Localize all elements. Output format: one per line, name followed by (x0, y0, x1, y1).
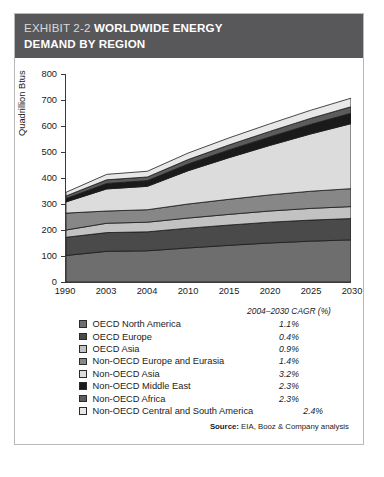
legend-item: Non-OECD Africa2.3% (79, 392, 349, 404)
y-axis-tick-label: 600 (41, 121, 57, 131)
y-axis-tick-mark (61, 204, 65, 205)
cagr-column-header: 2004–2030 CAGR (%) (229, 306, 349, 316)
legend-item-label: OECD North America (93, 319, 230, 329)
legend-item: OECD North America1.1% (79, 318, 349, 330)
legend-item-label: OECD Europe (93, 332, 230, 342)
x-axis-tick-label: 2010 (178, 286, 199, 296)
legend-swatch-icon (79, 358, 87, 366)
legend-swatch-icon (79, 320, 87, 328)
legend-swatch-icon (79, 370, 87, 378)
x-axis-tick-label: 1990 (55, 286, 76, 296)
y-axis-tick-label: 500 (41, 147, 57, 157)
y-axis-tick-mark (61, 256, 65, 257)
legend-swatch-icon (79, 395, 87, 403)
legend-item-label: Non-OECD Africa (93, 394, 230, 404)
y-axis-tick-mark (61, 178, 65, 179)
y-axis-tick-mark (61, 126, 65, 127)
exhibit-number: EXHIBIT 2-2 (24, 21, 91, 34)
plot-area (65, 74, 351, 283)
y-axis-tick-label: 200 (41, 225, 57, 235)
legend-swatch-icon (79, 345, 87, 353)
source-body: EIA, Booz & Company analysis (239, 422, 349, 431)
x-axis-tick-label: 2003 (96, 286, 117, 296)
legend-item-label: Non-OECD Asia (93, 369, 230, 379)
legend-swatch-icon (79, 333, 87, 341)
exhibit-title-line1: WORLDWIDE ENERGY (94, 21, 223, 34)
y-axis-tick-mark (61, 100, 65, 101)
legend-item-cagr: 2.3% (229, 381, 349, 391)
legend-item-cagr: 0.9% (229, 344, 349, 354)
legend-item-label: OECD Asia (93, 344, 230, 354)
legend-item: OECD Europe0.4% (79, 330, 349, 342)
legend-item: Non-OECD Middle East2.3% (79, 380, 349, 392)
legend-rows: OECD North America1.1%OECD Europe0.4%OEC… (79, 318, 349, 417)
legend-item-cagr: 1.4% (229, 356, 349, 366)
x-axis-tick-label: 2025 (301, 286, 322, 296)
legend-item-cagr: 2.4% (253, 406, 373, 416)
x-axis-tick-label: 2020 (260, 286, 281, 296)
y-axis-tick-label: 400 (41, 173, 57, 183)
legend-item-cagr: 1.1% (229, 319, 349, 329)
legend-item-label: Non-OECD Central and South America (93, 406, 254, 416)
y-axis-label: Quadrillion Btus (17, 70, 27, 136)
chart-plot-wrapper: Quadrillion Btus 01002003004005006007008… (15, 58, 363, 306)
y-axis-tick-mark (61, 282, 65, 283)
exhibit-figure: EXHIBIT 2-2 WORLDWIDE ENERGY DEMAND BY R… (14, 13, 364, 445)
legend-item: OECD Asia0.9% (79, 343, 349, 355)
y-axis-tick-mark (61, 152, 65, 153)
y-axis-tick-label: 800 (41, 69, 57, 79)
exhibit-header-line1: EXHIBIT 2-2 WORLDWIDE ENERGY (24, 20, 363, 36)
x-axis-tick-label: 2030 (342, 286, 363, 296)
source-note: Source: EIA, Booz & Company analysis (210, 422, 349, 431)
exhibit-header-line2: DEMAND BY REGION (24, 36, 363, 52)
legend-item-cagr: 2.3% (229, 394, 349, 404)
chart-legend: 2004–2030 CAGR (%) OECD North America1.1… (15, 306, 363, 434)
legend-item-label: Non-OECD Middle East (93, 381, 230, 391)
exhibit-title-line2: DEMAND BY REGION (24, 37, 145, 50)
legend-swatch-icon (79, 407, 87, 415)
source-prefix: Source: (210, 422, 239, 431)
exhibit-header: EXHIBIT 2-2 WORLDWIDE ENERGY DEMAND BY R… (15, 14, 363, 58)
y-axis-tick-label: 700 (41, 95, 57, 105)
y-axis-tick-mark (61, 74, 65, 75)
stacked-area-chart (66, 74, 351, 282)
legend-item: Non-OECD Asia3.2% (79, 368, 349, 380)
legend-item-label: Non-OECD Europe and Eurasia (93, 356, 230, 366)
y-axis-tick-mark (61, 230, 65, 231)
x-axis-tick-label: 2015 (219, 286, 240, 296)
legend-item: Non-OECD Central and South America2.4% (79, 405, 349, 417)
y-axis-tick-label: 100 (41, 251, 57, 261)
legend-item-cagr: 3.2% (229, 369, 349, 379)
y-axis-ticks: 0100200300400500600700800 (27, 58, 61, 306)
legend-item: Non-OECD Europe and Eurasia1.4% (79, 355, 349, 367)
legend-item-cagr: 0.4% (229, 332, 349, 342)
x-axis-tick-label: 2004 (137, 286, 158, 296)
legend-swatch-icon (79, 382, 87, 390)
x-axis-ticks: 19902003200420102015202020252030 (65, 286, 351, 302)
y-axis-tick-label: 300 (41, 199, 57, 209)
